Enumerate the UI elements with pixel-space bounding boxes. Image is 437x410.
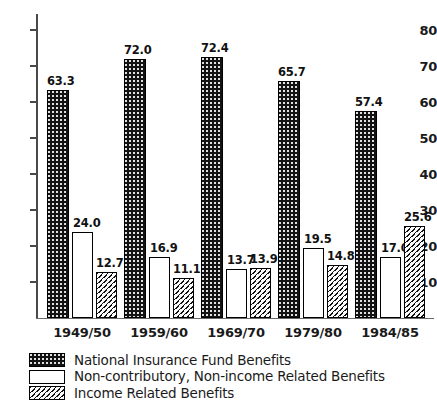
bar-value-label: 57.4 bbox=[355, 97, 383, 109]
bar-value-label: 25.6 bbox=[404, 212, 432, 224]
bar-value-label: 13.9 bbox=[250, 254, 278, 266]
legend-swatch bbox=[29, 370, 65, 384]
bar bbox=[404, 226, 425, 318]
bar bbox=[124, 59, 146, 318]
x-axis-baseline bbox=[36, 318, 434, 319]
legend-item: National Insurance Fund Benefits bbox=[29, 352, 434, 369]
y-tick-mark bbox=[30, 209, 37, 211]
y-tick-label: 70 bbox=[409, 60, 437, 73]
legend-item: Income Related Benefits bbox=[29, 385, 434, 402]
bar-value-label: 24.0 bbox=[73, 218, 101, 230]
bar-value-label: 65.7 bbox=[278, 67, 306, 79]
bar-chart: 8070605040302010 63.324.012.772.016.911.… bbox=[0, 0, 437, 410]
bar-value-label: 63.3 bbox=[47, 76, 75, 88]
bar bbox=[201, 57, 223, 318]
y-tick-mark bbox=[30, 245, 37, 247]
bar-value-label: 72.4 bbox=[201, 43, 229, 55]
y-tick-mark bbox=[30, 281, 37, 283]
legend-label: Non-contributory, Non-income Related Ben… bbox=[74, 370, 385, 384]
bar bbox=[327, 265, 348, 318]
bar bbox=[355, 111, 377, 318]
bar bbox=[149, 257, 170, 318]
bar-value-label: 19.5 bbox=[304, 234, 332, 246]
bar bbox=[380, 257, 401, 318]
y-tick-mark bbox=[30, 173, 37, 175]
bar bbox=[173, 278, 194, 318]
bar bbox=[47, 90, 69, 318]
bar-value-label: 12.7 bbox=[96, 258, 124, 270]
y-tick-label: 50 bbox=[409, 132, 437, 145]
y-tick-mark bbox=[30, 137, 37, 139]
x-axis-label: 1984/85 bbox=[343, 325, 437, 340]
bar bbox=[250, 268, 271, 318]
bar-value-label: 72.0 bbox=[124, 45, 152, 57]
bar bbox=[303, 248, 324, 318]
bar-value-label: 16.9 bbox=[150, 243, 178, 255]
bar-value-label: 11.1 bbox=[173, 264, 201, 276]
bar-value-label: 14.8 bbox=[327, 251, 355, 263]
legend-swatch bbox=[29, 353, 65, 367]
y-tick-label: 40 bbox=[409, 168, 437, 181]
legend-label: National Insurance Fund Benefits bbox=[74, 354, 291, 368]
y-axis-line bbox=[36, 14, 38, 319]
legend-swatch bbox=[29, 386, 65, 400]
bar bbox=[96, 272, 117, 318]
y-tick-label: 60 bbox=[409, 96, 437, 109]
bar bbox=[72, 232, 93, 318]
legend-label: Income Related Benefits bbox=[74, 387, 234, 401]
chart-legend: National Insurance Fund BenefitsNon-cont… bbox=[29, 352, 434, 402]
bar bbox=[226, 269, 247, 318]
y-tick-label: 80 bbox=[409, 24, 437, 37]
y-tick-mark bbox=[30, 29, 37, 31]
y-tick-mark bbox=[30, 65, 37, 67]
legend-item: Non-contributory, Non-income Related Ben… bbox=[29, 369, 434, 386]
bar bbox=[278, 81, 300, 318]
y-tick-mark bbox=[30, 101, 37, 103]
